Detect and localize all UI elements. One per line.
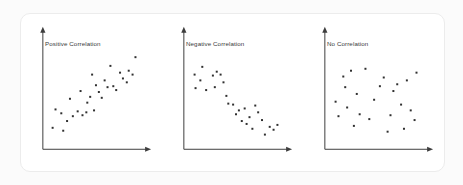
scatter-point <box>403 128 405 130</box>
scatter-point <box>379 85 381 87</box>
scatter-point <box>344 86 346 88</box>
scatter-point <box>85 111 87 113</box>
scatter-point <box>368 118 370 120</box>
scatter-point <box>122 77 124 79</box>
scatter-point <box>205 89 207 91</box>
scatter-point <box>107 86 109 88</box>
scatter-point <box>396 83 398 85</box>
scatter-point <box>62 130 64 132</box>
scatter-point <box>414 119 416 121</box>
scatter-point <box>244 107 246 109</box>
correlation-chart-card: Positive Correlation Negative Correlatio… <box>20 13 445 172</box>
scatter-point <box>387 131 389 133</box>
scatter-plot-negative <box>162 14 303 171</box>
scatter-points-positive <box>52 56 137 132</box>
scatter-point <box>212 75 214 77</box>
scatter-point <box>86 102 88 104</box>
scatter-point <box>416 72 418 74</box>
scatter-point <box>134 56 136 58</box>
x-axis-arrowhead-icon <box>286 147 292 152</box>
scatter-point <box>264 134 266 136</box>
scatter-point <box>195 87 197 89</box>
scatter-point <box>261 119 263 121</box>
chart-panel-negative-correlation: Negative Correlation <box>162 14 303 171</box>
scatter-point <box>359 113 361 115</box>
panel-title-none: No Correlation <box>327 40 368 48</box>
scatter-point <box>214 86 216 88</box>
scatter-point <box>346 107 348 109</box>
panel-title-negative: Negative Correlation <box>186 40 244 48</box>
scatter-point <box>356 93 358 95</box>
scatter-plot-positive <box>21 14 162 171</box>
scatter-point <box>216 71 218 73</box>
scatter-point <box>232 104 234 106</box>
scatter-point <box>199 79 201 81</box>
scatter-point <box>201 66 203 68</box>
scatter-point <box>115 89 117 91</box>
scatter-point <box>95 84 97 86</box>
scatter-point <box>350 70 352 72</box>
scatter-point <box>406 79 408 81</box>
scatter-point <box>383 77 385 79</box>
y-axis-arrowhead-icon <box>181 27 186 33</box>
scatter-point <box>335 101 337 103</box>
scatter-point <box>269 126 271 128</box>
scatter-point <box>104 79 106 81</box>
scatter-point <box>222 81 224 83</box>
chart-panel-positive-correlation: Positive Correlation <box>21 14 162 171</box>
scatter-point <box>238 109 240 111</box>
scatter-point <box>227 103 229 105</box>
x-axis-arrowhead-icon <box>145 147 151 152</box>
panel-title-positive: Positive Correlation <box>45 40 101 48</box>
chart-panel-no-correlation: No Correlation <box>303 14 444 171</box>
scatter-point <box>246 123 248 125</box>
scatter-point <box>248 116 250 118</box>
scatter-point <box>69 98 71 100</box>
scatter-point <box>77 110 79 112</box>
scatter-point <box>101 97 103 99</box>
scatter-point <box>254 105 256 107</box>
scatter-point <box>89 96 91 98</box>
scatter-point <box>225 95 227 97</box>
scatter-point <box>112 85 114 87</box>
scatter-point <box>400 104 402 106</box>
scatter-point <box>109 65 111 67</box>
scatter-point <box>81 114 83 116</box>
scatter-point <box>91 74 93 76</box>
scatter-point <box>66 120 68 122</box>
scatter-point <box>373 99 375 101</box>
scatter-points-negative <box>194 66 279 136</box>
scatter-point <box>342 76 344 78</box>
scatter-point <box>52 127 54 129</box>
scatter-point <box>194 74 196 76</box>
scatter-point <box>93 109 95 111</box>
scatter-point <box>276 124 278 126</box>
scatter-point <box>410 109 412 111</box>
scatter-point <box>251 128 253 130</box>
scatter-plot-none <box>303 14 444 171</box>
y-axis-arrowhead-icon <box>40 27 45 33</box>
scatter-point <box>132 74 134 76</box>
scatter-point <box>60 112 62 114</box>
scatter-point <box>235 113 237 115</box>
scatter-point <box>119 72 121 74</box>
scatter-point <box>72 115 74 117</box>
scatter-point <box>337 115 339 117</box>
screenshot-stage: Positive Correlation Negative Correlatio… <box>0 0 463 185</box>
scatter-point <box>241 120 243 122</box>
scatter-points-none <box>335 68 418 133</box>
chart-panel-row: Positive Correlation Negative Correlatio… <box>21 14 444 171</box>
scatter-point <box>353 125 355 127</box>
scatter-point <box>98 91 100 93</box>
scatter-point <box>273 129 275 131</box>
y-axis-arrowhead-icon <box>322 27 327 33</box>
scatter-point <box>128 70 130 72</box>
scatter-point <box>220 74 222 76</box>
scatter-point <box>364 68 366 70</box>
scatter-point <box>392 90 394 92</box>
scatter-point <box>55 108 57 110</box>
x-axis-arrowhead-icon <box>427 147 433 152</box>
scatter-point <box>126 81 128 83</box>
scatter-point <box>389 114 391 116</box>
scatter-point <box>80 90 82 92</box>
